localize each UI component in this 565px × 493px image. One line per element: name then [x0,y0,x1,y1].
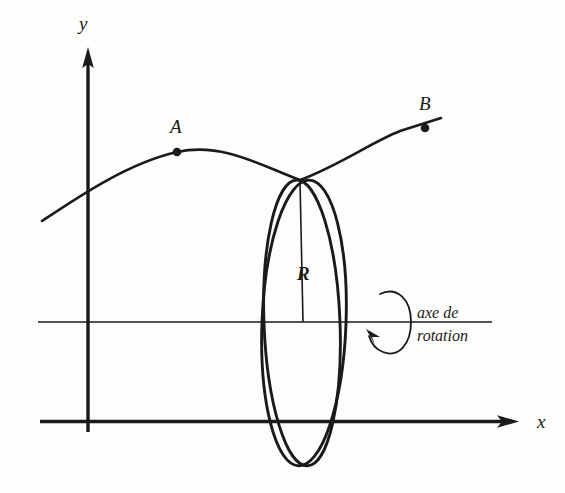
y-axis-label: y [77,13,88,34]
revolution-surface-diagram: y x A B [0,0,565,493]
revolution-circle [257,178,352,467]
radius-segment [300,181,303,322]
point-a [173,148,182,157]
generating-curve [42,118,441,221]
point-b-label: B [419,93,431,114]
y-axis [82,47,94,432]
point-b [421,124,430,133]
axis-of-rotation-label-line2: rotation [417,327,468,344]
point-b-dot [421,124,430,133]
radius-line [300,181,303,322]
rotation-arrow-head [366,329,380,345]
point-a-label: A [168,116,182,137]
generating-curve-path [42,118,441,221]
figure-canvas: y x A B [0,0,565,493]
axis-of-rotation-label-line1: axe de [417,304,458,321]
x-axis-label: x [536,411,546,432]
point-a-dot [173,148,182,157]
radius-label: R [296,263,310,284]
